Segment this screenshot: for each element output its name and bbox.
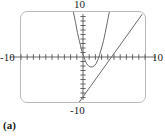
x-axis-min-label: -10 — [0, 51, 15, 63]
y-axis-max-label: 10 — [74, 0, 85, 10]
x-axis-max-label: 10 — [152, 51, 163, 63]
parabola-curve — [73, 12, 109, 67]
figure-caption: (a) — [3, 119, 16, 131]
figure-panel: 10 -10 -10 10 (a) — [0, 0, 165, 137]
y-axis-min-label: -10 — [70, 104, 85, 116]
plot-canvas — [0, 0, 165, 137]
